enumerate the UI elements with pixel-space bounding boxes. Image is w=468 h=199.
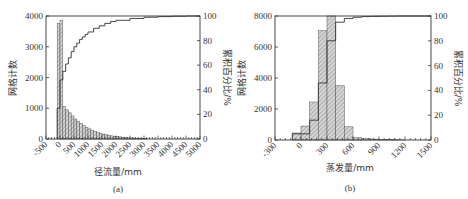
y-axis-label: 网格计数	[236, 60, 247, 96]
y-tick-label: 8000	[254, 11, 273, 21]
histogram-bar	[105, 135, 108, 139]
y2-tick-label: 60	[203, 60, 213, 70]
chart-panel-a: 01000200030004000020406080100-5000500100…	[7, 11, 233, 194]
x-tick-label: 1200	[389, 140, 409, 160]
y2-axis-label: 累积百分比/%	[453, 50, 464, 107]
histogram-bar	[82, 125, 85, 139]
x-tick-label: 1500	[415, 140, 435, 160]
y2-tick-label: 20	[203, 109, 213, 119]
x-tick-label: 900	[366, 140, 383, 157]
y-tick-label: 4000	[25, 11, 44, 21]
panel-label: (a)	[113, 184, 123, 194]
y2-axis-label: 累积百分比/%	[222, 49, 233, 106]
y2-tick-label: 40	[434, 85, 444, 95]
y-tick-label: 4000	[254, 73, 273, 83]
histogram-bar	[94, 131, 97, 139]
y-tick-label: 1000	[25, 103, 44, 113]
histogram-bar	[108, 135, 111, 139]
histogram-bar	[301, 126, 310, 140]
y2-tick-label: 100	[203, 11, 217, 21]
y-tick-label: 3000	[25, 42, 44, 52]
y-tick-label: 2000	[254, 104, 273, 114]
histogram-bar	[85, 127, 88, 139]
histogram-bar	[310, 102, 319, 140]
y-tick-label: 2000	[25, 73, 44, 83]
y2-tick-label: 100	[434, 11, 448, 21]
plot-frame	[275, 16, 431, 140]
x-tick-label: -300	[260, 140, 279, 159]
y2-tick-label: 80	[434, 36, 444, 46]
y2-tick-label: 80	[203, 36, 213, 46]
histogram-bar	[66, 110, 69, 139]
cumulative-percent-line	[57, 16, 200, 139]
x-tick-label: 600	[340, 140, 357, 157]
histogram-bar	[110, 136, 113, 139]
y2-tick-label: 0	[434, 135, 439, 145]
chart-panel-b: 02000400060008000020406080100-3000300600…	[236, 11, 464, 193]
x-tick-label: 0	[294, 140, 305, 151]
histogram-bar	[71, 116, 74, 139]
y-axis-label: 网格计数	[7, 60, 18, 96]
histogram-bar	[336, 86, 345, 140]
histogram-bar	[77, 121, 80, 139]
histogram-bar	[88, 129, 91, 139]
y2-tick-label: 20	[434, 110, 444, 120]
x-tick-label: 300	[314, 140, 331, 157]
x-tick-label: -500	[31, 139, 50, 158]
histogram-bar	[318, 31, 327, 140]
histogram-bar	[96, 133, 99, 139]
histogram-bar	[91, 130, 94, 139]
histogram-bar	[80, 124, 83, 139]
histogram-bar	[102, 134, 105, 139]
y-tick-label: 6000	[254, 42, 273, 52]
x-axis-label: 径流量/mm	[94, 166, 142, 177]
histogram-bars	[57, 21, 147, 139]
x-tick-label: 5000	[184, 139, 204, 159]
histogram-bar	[68, 113, 71, 139]
panel-label: (b)	[345, 183, 356, 193]
y2-tick-label: 0	[203, 134, 208, 144]
histogram-bar	[327, 16, 336, 140]
histogram-bar	[344, 127, 353, 140]
figure: 01000200030004000020406080100-5000500100…	[0, 0, 468, 199]
y2-tick-label: 60	[434, 61, 444, 71]
histogram-bar	[99, 133, 102, 139]
y2-tick-label: 40	[203, 85, 213, 95]
histogram-bar	[63, 107, 66, 139]
x-axis-label: 蒸发量/mm	[326, 162, 374, 173]
histogram-bar	[74, 119, 77, 139]
